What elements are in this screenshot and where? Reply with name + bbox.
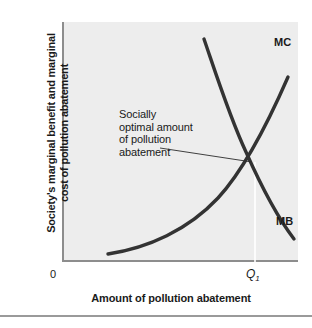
x-axis-tick-label-q1: Q1: [246, 267, 260, 286]
figure-top-rule: [0, 0, 312, 1]
y-axis-title-line1: Society's marginal benefit and marginal: [45, 8, 58, 258]
mb-curve-label: MB: [276, 215, 293, 227]
q-letter: Q: [246, 267, 255, 281]
mb-curve: [204, 39, 294, 239]
x-axis-title: Amount of pollution abatement: [40, 292, 302, 304]
q-subscript: 1: [255, 274, 259, 283]
annotation-line-1: Socially: [119, 108, 211, 121]
figure-bottom-rule: [0, 315, 312, 317]
figure-container: Society's marginal benefit and marginal …: [0, 0, 312, 328]
x-axis-origin-label: 0: [50, 268, 56, 281]
mc-curve: [108, 77, 288, 254]
y-axis-title-line2: cost of pollution abatement: [58, 8, 71, 258]
y-axis-title: Society's marginal benefit and marginal …: [45, 8, 71, 258]
annotation-line-4: abatement: [119, 146, 211, 159]
annotation-text: Socially optimal amount of pollution aba…: [119, 108, 211, 158]
annotation-line-3: of pollution: [119, 133, 211, 146]
annotation-line-2: optimal amount: [119, 121, 211, 134]
mc-curve-label: MC: [274, 36, 291, 48]
